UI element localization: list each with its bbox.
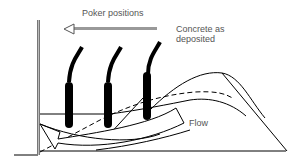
left-arrow-icon [64, 24, 157, 34]
deposited-profile-solid [150, 73, 265, 118]
poker-1-icon [65, 47, 82, 128]
concrete-vibration-diagram [0, 0, 299, 167]
poker-2-icon [104, 47, 121, 128]
concrete-as-deposited-label: Concrete as deposited [176, 24, 225, 44]
formwork-wall [37, 20, 40, 155]
concrete-label-line2: deposited [176, 34, 225, 44]
concrete-label-line1: Concrete as [176, 24, 225, 34]
flow-label: Flow [189, 118, 208, 128]
poker-positions-label: Poker positions [82, 8, 144, 18]
ground-line [14, 151, 286, 155]
right-slope [222, 73, 287, 151]
